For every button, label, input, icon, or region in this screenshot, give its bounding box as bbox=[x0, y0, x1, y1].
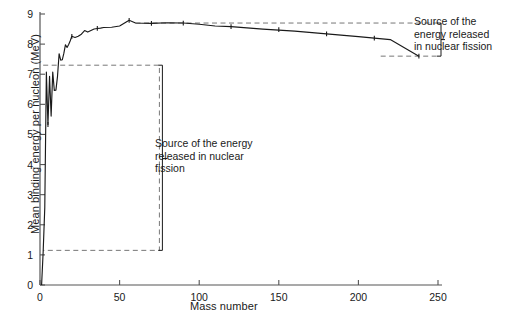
x-tick-label-200: 200 bbox=[350, 291, 368, 303]
y-tick-label-0: 0 bbox=[27, 279, 33, 291]
fusion-dashed-box bbox=[43, 65, 159, 250]
annotation-fission-inner: Source of the energy released in nuclear… bbox=[155, 137, 270, 175]
binding-energy-chart: 0123456789050100150200250 Mean binding e… bbox=[0, 0, 508, 320]
annotation-fission-right: Source of the energy released in nuclear… bbox=[414, 15, 508, 53]
x-tick-label-150: 150 bbox=[270, 291, 288, 303]
x-axis-title: Mass number bbox=[190, 300, 258, 312]
x-tick-label-50: 50 bbox=[114, 291, 126, 303]
x-tick-label-250: 250 bbox=[429, 291, 447, 303]
y-axis-title: Mean binding energy per nucleon (MeV) bbox=[29, 9, 41, 259]
x-tick-label-0: 0 bbox=[37, 291, 43, 303]
